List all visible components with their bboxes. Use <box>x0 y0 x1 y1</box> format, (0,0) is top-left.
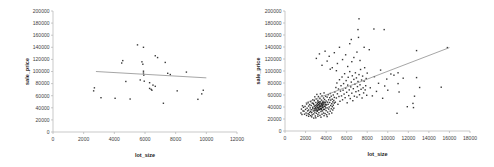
data-point <box>310 115 311 116</box>
data-point <box>321 65 322 66</box>
data-point <box>357 86 358 87</box>
data-point <box>165 62 166 63</box>
x-axis-title: lot_size <box>367 151 387 157</box>
data-point <box>326 116 327 117</box>
data-point <box>312 108 313 109</box>
data-point <box>151 90 152 91</box>
data-point <box>324 102 325 103</box>
data-point <box>149 82 150 83</box>
data-point <box>332 67 333 68</box>
data-point <box>201 93 202 94</box>
data-point <box>402 78 403 79</box>
data-point <box>344 73 345 74</box>
data-point <box>122 60 123 61</box>
data-point <box>121 62 122 63</box>
data-point <box>365 85 366 86</box>
data-point <box>340 85 341 86</box>
data-point <box>334 52 335 53</box>
x-tick-label: 2000 <box>300 135 311 141</box>
data-point <box>301 108 302 109</box>
data-point <box>333 108 334 109</box>
data-point <box>94 87 95 88</box>
data-point <box>321 99 322 100</box>
data-point <box>340 90 341 91</box>
data-point <box>143 70 144 71</box>
data-point <box>312 107 313 108</box>
x-axis-title: lot_size <box>135 152 155 158</box>
data-point <box>363 47 364 48</box>
y-tick-label: 80000 <box>268 80 282 86</box>
data-point <box>315 108 316 109</box>
data-point <box>318 96 319 97</box>
data-point <box>137 44 138 45</box>
data-point <box>317 100 318 101</box>
data-point <box>305 112 306 113</box>
data-point <box>361 79 362 80</box>
data-point <box>380 69 381 70</box>
data-point <box>441 87 442 88</box>
data-point <box>157 57 158 58</box>
data-point <box>341 95 342 96</box>
data-point <box>335 102 336 103</box>
data-point <box>330 105 331 106</box>
data-point <box>311 109 312 110</box>
data-point <box>302 105 303 106</box>
data-point <box>353 57 354 58</box>
data-point <box>356 51 357 52</box>
x-tick-label: 12000 <box>230 136 244 142</box>
data-point <box>351 61 352 62</box>
data-point <box>376 91 377 92</box>
data-point <box>347 84 348 85</box>
data-point <box>325 104 326 105</box>
x-tick-label: 10000 <box>381 135 395 141</box>
data-point <box>361 97 362 98</box>
data-point <box>306 115 307 116</box>
y-axis-title: sale_price <box>24 58 30 85</box>
data-point <box>312 114 313 115</box>
data-point <box>364 67 365 68</box>
data-point <box>337 104 338 105</box>
data-point <box>346 102 347 103</box>
data-point <box>343 83 344 84</box>
data-point <box>318 104 319 105</box>
data-point <box>339 101 340 102</box>
y-tick-label: 100000 <box>265 68 282 74</box>
data-point <box>321 109 322 110</box>
data-point <box>358 37 359 38</box>
y-axis-title: sale_price <box>255 58 261 85</box>
data-point <box>317 107 318 108</box>
data-point <box>316 113 317 114</box>
trend-line <box>306 48 450 103</box>
data-point <box>152 84 153 85</box>
data-point <box>416 50 417 51</box>
data-point <box>314 111 315 112</box>
data-point <box>419 87 420 88</box>
data-point <box>318 112 319 113</box>
y-tick-label: 160000 <box>33 32 50 38</box>
data-point <box>393 75 394 76</box>
data-point <box>308 109 309 110</box>
data-point <box>338 88 339 89</box>
x-tick-label: 14000 <box>422 135 436 141</box>
data-point <box>323 112 324 113</box>
data-point <box>387 90 388 91</box>
data-point <box>314 105 315 106</box>
data-point <box>311 116 312 117</box>
data-point <box>348 77 349 78</box>
data-point <box>319 106 320 107</box>
data-point <box>334 97 335 98</box>
data-point <box>331 108 332 109</box>
data-point <box>177 90 178 91</box>
data-point <box>142 64 143 65</box>
data-point <box>348 95 349 96</box>
data-point <box>313 113 314 114</box>
x-tick-label: 8000 <box>362 135 373 141</box>
data-point <box>305 109 306 110</box>
data-point <box>338 96 339 97</box>
data-point <box>324 113 325 114</box>
points-group <box>300 18 448 119</box>
data-point <box>321 103 322 104</box>
data-point <box>414 96 415 97</box>
data-point <box>356 77 357 78</box>
data-point <box>322 107 323 108</box>
